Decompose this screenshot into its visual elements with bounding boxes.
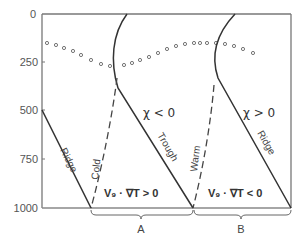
tropopause-dots [45, 41, 254, 67]
label-region-b: B [237, 223, 244, 235]
y-tick-500: 500 [20, 104, 38, 116]
vertical-cross-section-diagram: 0 250 500 750 1000 Ridge Cold Trough War… [0, 0, 306, 239]
brace-a [91, 210, 193, 219]
label-chi-negative: χ < 0 [143, 106, 175, 120]
label-warm: Warm [188, 145, 202, 172]
diagram-stage: 0 250 500 750 1000 Ridge Cold Trough War… [0, 0, 306, 239]
y-tick-750: 750 [20, 153, 38, 165]
label-cold: Cold [89, 158, 102, 180]
label-trough: Trough [155, 131, 180, 164]
brace-b [194, 210, 291, 219]
label-advection-positive: V₉ · ∇T > 0 [104, 187, 158, 199]
y-tick-0: 0 [30, 8, 36, 20]
label-chi-positive: χ > 0 [243, 106, 275, 120]
label-ridge-right: Ridge [255, 129, 278, 158]
label-ridge-left: Ridge [58, 146, 80, 175]
label-region-a: A [137, 223, 145, 235]
label-advection-negative: V₉ · ∇T < 0 [208, 187, 262, 199]
y-tick-250: 250 [20, 56, 38, 68]
y-axis: 0 250 500 750 1000 [14, 8, 45, 214]
y-tick-1000: 1000 [14, 202, 38, 214]
